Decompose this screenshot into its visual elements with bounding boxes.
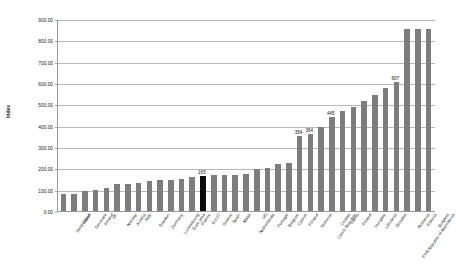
bar-fill [329, 117, 335, 211]
bar [211, 20, 217, 211]
bar-fill [394, 82, 400, 211]
bar [404, 20, 410, 211]
y-axis-tick-label: 0.00 [44, 210, 53, 215]
bar [189, 20, 195, 211]
y-axis-tick-mark [55, 84, 57, 85]
bar-value-label: 445 [327, 111, 335, 116]
bar-fill [232, 175, 238, 212]
y-axis: 0.00100.00200.00300.00400.00500.00600.00… [0, 0, 57, 266]
bar-fill [222, 175, 228, 212]
bar-fill [351, 107, 357, 211]
bar-fill [340, 111, 346, 211]
bar-fill [71, 194, 77, 211]
y-axis-tick-label: 300.00 [38, 146, 53, 151]
y-axis-tick-label: 100.00 [38, 188, 53, 193]
y-axis-tick-label: 600.00 [38, 82, 53, 87]
bar-series: 165354364445607 [58, 20, 435, 211]
bar-fill [308, 134, 314, 211]
bar [340, 20, 346, 211]
bar [222, 20, 228, 211]
bar-fill [415, 29, 421, 212]
bar [104, 20, 110, 211]
bar [125, 20, 131, 211]
bar [254, 20, 260, 211]
bar [383, 20, 389, 211]
bar-fill [168, 180, 174, 211]
y-axis-tick-mark [55, 105, 57, 106]
bar-fill [426, 29, 432, 212]
bar-fill [383, 88, 389, 211]
bar [394, 20, 400, 211]
bar-value-label: 364 [305, 128, 313, 133]
bar-highlight [200, 176, 206, 211]
bar-value-label: 354 [295, 130, 303, 135]
bar [286, 20, 292, 211]
bar-fill [404, 29, 410, 212]
bar [93, 20, 99, 211]
bar-fill [93, 190, 99, 211]
bar-value-label: 607 [391, 76, 399, 81]
bar [232, 20, 238, 211]
bar [61, 20, 67, 211]
bar-fill [254, 169, 260, 211]
bar [426, 20, 432, 211]
y-axis-tick-mark [55, 212, 57, 213]
x-axis-labels: SwitzerlandJapanDenmarkIrelandUKNorwayAu… [58, 213, 435, 266]
bar [275, 20, 281, 211]
bar-fill [297, 136, 303, 211]
bar-fill [189, 177, 195, 211]
y-axis-tick-mark [55, 63, 57, 64]
bar [82, 20, 88, 211]
bar-fill [179, 179, 185, 211]
y-axis-tick-mark [55, 20, 57, 21]
bar [361, 20, 367, 211]
bar [351, 20, 357, 211]
bar [71, 20, 77, 211]
x-axis-tick-label: Germany [170, 213, 184, 230]
y-axis-tick-mark [55, 191, 57, 192]
bar [147, 20, 153, 211]
x-axis-tick-label: Slovenia [320, 213, 333, 229]
bar-fill [318, 127, 324, 211]
bar [200, 20, 206, 211]
x-axis-tick-label: UK [111, 213, 118, 221]
bar [265, 20, 271, 211]
bar-value-label: 165 [198, 170, 206, 175]
bar [415, 20, 421, 211]
bar [114, 20, 120, 211]
bar-fill [211, 175, 217, 212]
y-axis-tick-mark [55, 148, 57, 149]
bar [243, 20, 249, 211]
bar-fill [157, 180, 163, 211]
bar-fill [125, 184, 131, 211]
bar [168, 20, 174, 211]
bar [179, 20, 185, 211]
bar-fill [265, 168, 271, 212]
x-axis-tick-label: Japan [82, 213, 92, 225]
y-axis-title: Index [5, 105, 11, 118]
y-axis-tick-label: 900.00 [38, 18, 53, 23]
y-axis-tick-mark [55, 41, 57, 42]
x-axis-tick-label: Italy [144, 213, 152, 222]
bar [372, 20, 378, 211]
y-axis-tick-label: 800.00 [38, 39, 53, 44]
y-axis-tick-mark [55, 169, 57, 170]
bar-fill [286, 163, 292, 211]
bar [297, 20, 303, 211]
bar [136, 20, 142, 211]
bar-fill [61, 194, 67, 211]
y-axis-tick-mark [55, 127, 57, 128]
bar-fill [147, 181, 153, 211]
bar [318, 20, 324, 211]
x-axis-tick-label: Malta [242, 213, 252, 224]
bar [308, 20, 314, 211]
y-axis-tick-label: 500.00 [38, 103, 53, 108]
x-axis-tick-label: Poland [362, 213, 373, 227]
bar-fill [114, 184, 120, 211]
bar [157, 20, 163, 211]
bar-fill [372, 95, 378, 211]
bar-fill [136, 183, 142, 211]
y-axis-tick-label: 400.00 [38, 124, 53, 129]
bar-fill [104, 188, 110, 211]
